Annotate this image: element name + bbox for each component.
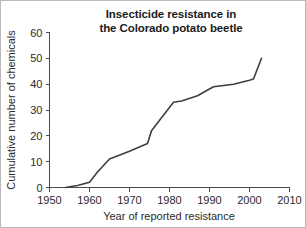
chart-figure: Insecticide resistance in the Colorado p… bbox=[0, 0, 306, 228]
x-tick-label: 1980 bbox=[157, 194, 181, 206]
y-axis-ticks: 0102030405060 bbox=[30, 27, 49, 194]
x-tick-label: 1960 bbox=[77, 194, 101, 206]
line-chart-plot: 0102030405060 19501960197019801990200020… bbox=[1, 1, 306, 228]
y-tick-label: 0 bbox=[36, 182, 42, 194]
x-tick-label: 2000 bbox=[237, 194, 261, 206]
x-tick-label: 1950 bbox=[37, 194, 61, 206]
y-axis-title: Cumulative number of chemicals bbox=[5, 30, 17, 190]
y-tick-label: 10 bbox=[30, 156, 42, 168]
y-tick-label: 60 bbox=[30, 27, 42, 39]
y-tick-label: 20 bbox=[30, 130, 42, 142]
x-axis-title: Year of reported resistance bbox=[103, 210, 235, 222]
data-series-line bbox=[66, 58, 262, 187]
x-tick-label: 1970 bbox=[117, 194, 141, 206]
y-tick-label: 50 bbox=[30, 52, 42, 64]
y-tick-label: 40 bbox=[30, 78, 42, 90]
x-tick-label: 1990 bbox=[197, 194, 221, 206]
y-tick-label: 30 bbox=[30, 104, 42, 116]
x-tick-label: 2010 bbox=[277, 194, 301, 206]
x-axis-ticks: 1950196019701980199020002010 bbox=[37, 188, 301, 206]
